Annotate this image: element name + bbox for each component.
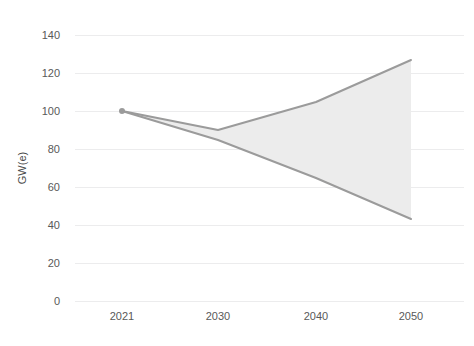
start-point-marker-2021 xyxy=(119,108,125,114)
y-tick-120: 120 xyxy=(42,67,60,79)
x-tick-2050: 2050 xyxy=(399,310,423,322)
chart-container: 140 120 100 80 60 40 20 0 GW(e) 2021 203… xyxy=(0,0,474,346)
x-tick-2021: 2021 xyxy=(110,310,134,322)
x-tick-2040: 2040 xyxy=(304,310,328,322)
y-axis-title: GW(e) xyxy=(16,152,28,184)
y-tick-0: 0 xyxy=(54,295,60,307)
x-tick-2030: 2030 xyxy=(206,310,230,322)
y-tick-80: 80 xyxy=(48,143,60,155)
y-tick-60: 60 xyxy=(48,181,60,193)
y-tick-40: 40 xyxy=(48,219,60,231)
uncertainty-band-chart: 140 120 100 80 60 40 20 0 GW(e) 2021 203… xyxy=(0,0,474,346)
y-tick-140: 140 xyxy=(42,29,60,41)
y-tick-100: 100 xyxy=(42,105,60,117)
y-tick-20: 20 xyxy=(48,257,60,269)
